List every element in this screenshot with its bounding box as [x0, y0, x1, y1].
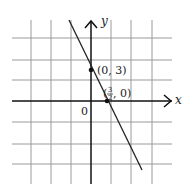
svg-text:3: 3	[108, 86, 112, 94]
y-axis-label: y	[100, 14, 108, 28]
y-axis	[85, 21, 97, 184]
y-intercept-label: (0, 3)	[97, 64, 127, 77]
x-axis	[12, 95, 172, 107]
point-y-intercept	[89, 68, 94, 73]
svg-text:2: 2	[108, 94, 112, 102]
origin-label: 0	[81, 105, 88, 118]
grid-lines	[12, 20, 172, 184]
coordinate-graph: y x 0 (0, 3) ( 3 2 , 0)	[0, 0, 191, 195]
svg-text:, 0): , 0)	[113, 87, 131, 100]
x-axis-label: x	[175, 93, 182, 107]
x-intercept-label: ( 3 2 , 0)	[103, 86, 131, 102]
svg-text:(: (	[103, 87, 107, 100]
